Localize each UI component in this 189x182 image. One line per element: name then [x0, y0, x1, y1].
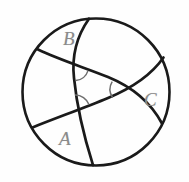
- vertex-label-c: C: [144, 90, 157, 109]
- angle-mark-at-b: [76, 71, 88, 81]
- great-circle-arc-upper: [38, 50, 162, 124]
- sphere-diagram-canvas: [0, 0, 189, 182]
- spherical-triangle-figure: B A C: [0, 0, 189, 182]
- vertex-label-a: A: [59, 129, 71, 148]
- vertex-label-b: B: [63, 29, 75, 48]
- great-circle-arc-vertical: [73, 19, 93, 165]
